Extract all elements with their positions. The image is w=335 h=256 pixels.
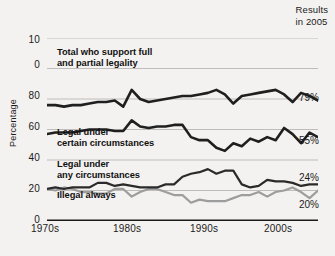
x-tick-label-2000s: 2000s xyxy=(264,223,292,234)
x-tick-label-1990s: 1990s xyxy=(190,223,218,234)
end-value-24: 24% xyxy=(299,172,319,183)
series-line xyxy=(47,90,318,107)
y-tick-label-120: 10 xyxy=(14,34,40,45)
series-label-certain-line2: certain circumstances xyxy=(57,138,154,148)
end-value-55: 55% xyxy=(299,135,319,146)
y-tick-label-100: 0 xyxy=(14,59,40,70)
end-value-20: 20% xyxy=(299,199,319,210)
series-label-total-line2: and partial legality xyxy=(57,58,138,68)
end-value-79: 79% xyxy=(299,92,319,103)
series-label-any: Legal under any circumstances xyxy=(57,159,140,180)
series-label-total-line1: Total who support full xyxy=(57,47,152,57)
series-label-certain: Legal under certain circumstances xyxy=(57,127,154,148)
series-label-any-line1: Legal under xyxy=(57,159,109,169)
results-caption-line2: in 2005 xyxy=(296,16,328,28)
results-caption-line1: Results xyxy=(296,4,328,16)
series-label-illegal-line1: Illegal always xyxy=(57,190,116,200)
y-tick-label-20: 20 xyxy=(14,183,40,194)
y-tick-label-60: 60 xyxy=(14,121,40,132)
results-caption: Results in 2005 xyxy=(296,4,328,27)
x-tick-label-1980s: 1980s xyxy=(113,223,141,234)
series-label-certain-line1: Legal under xyxy=(57,127,109,137)
x-tick-label-1970s: 1970s xyxy=(31,223,59,234)
series-label-total: Total who support full and partial legal… xyxy=(57,47,152,68)
series-label-illegal: Illegal always xyxy=(57,190,116,201)
chart-container: Results in 2005 Percentage 10 0 80 60 40… xyxy=(0,0,335,256)
y-tick-label-80: 80 xyxy=(14,90,40,101)
y-tick-label-40: 40 xyxy=(14,152,40,163)
series-label-any-line2: any circumstances xyxy=(57,170,140,180)
